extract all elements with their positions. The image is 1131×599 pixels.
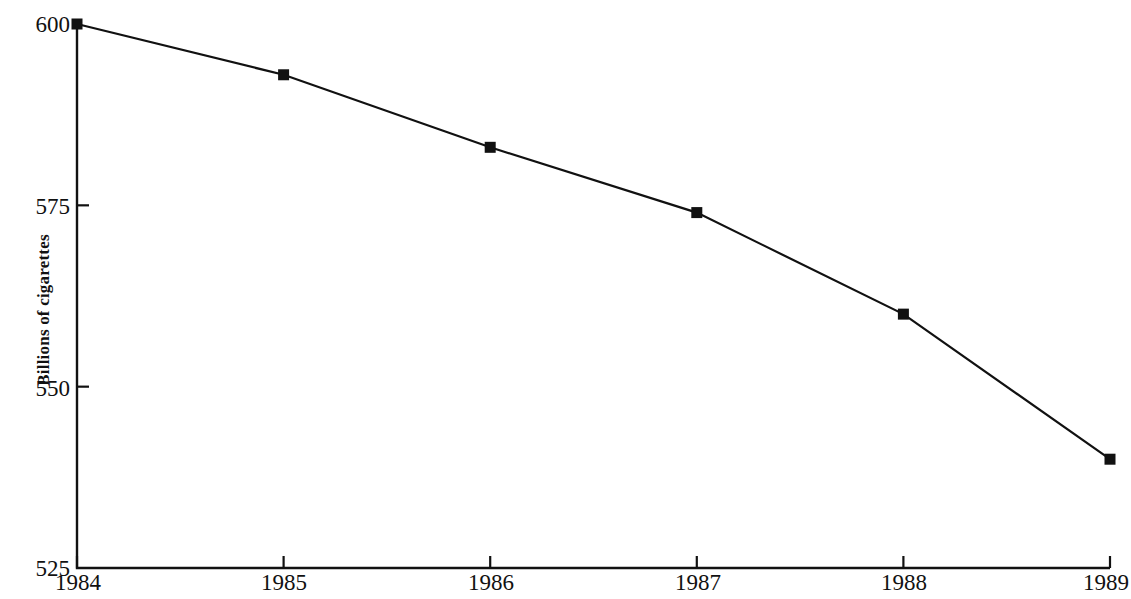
data-point-marker xyxy=(898,309,909,320)
axis-spines xyxy=(77,24,1110,568)
data-point-marker xyxy=(485,142,496,153)
data-point-markers xyxy=(72,19,1116,465)
y-axis-tick-marks xyxy=(77,205,89,386)
x-axis-tick-marks xyxy=(77,556,1110,568)
data-point-marker xyxy=(72,19,83,30)
data-point-marker xyxy=(278,69,289,80)
data-series-line xyxy=(77,24,1110,459)
line-chart: Billions of cigarettes 600 575 550 525 1… xyxy=(0,0,1131,599)
plot-area xyxy=(0,0,1131,599)
data-point-marker xyxy=(1105,454,1116,465)
data-point-marker xyxy=(691,207,702,218)
